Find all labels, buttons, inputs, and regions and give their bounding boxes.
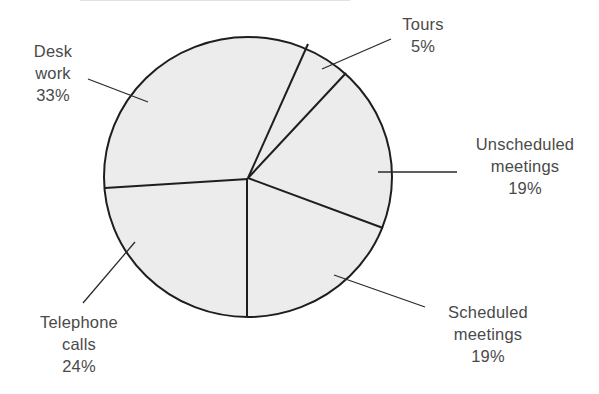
label-desk-value: 33%: [26, 84, 80, 106]
label-unscheduled-line1: Unscheduled: [455, 133, 595, 155]
label-telephone-line2: calls: [24, 333, 134, 355]
leader-telephone: [83, 242, 135, 303]
leader-tours: [322, 39, 391, 69]
label-telephone-line1: Telephone: [24, 311, 134, 333]
label-tours: Tours 5%: [395, 13, 451, 57]
label-unscheduled-line2: meetings: [455, 155, 595, 177]
label-desk-line1: Desk: [26, 40, 80, 62]
label-tours-value: 5%: [395, 35, 451, 57]
leader-scheduled: [334, 275, 425, 307]
label-scheduled-meetings: Scheduled meetings 19%: [428, 301, 548, 367]
label-telephone-calls: Telephone calls 24%: [24, 311, 134, 377]
label-tours-line1: Tours: [395, 13, 451, 35]
label-unscheduled-meetings: Unscheduled meetings 19%: [455, 133, 595, 199]
label-scheduled-line2: meetings: [428, 323, 548, 345]
label-desk-work: Desk work 33%: [26, 40, 80, 106]
label-desk-line2: work: [26, 62, 80, 84]
label-unscheduled-value: 19%: [455, 177, 595, 199]
label-scheduled-value: 19%: [428, 345, 548, 367]
label-scheduled-line1: Scheduled: [428, 301, 548, 323]
label-telephone-value: 24%: [24, 355, 134, 377]
